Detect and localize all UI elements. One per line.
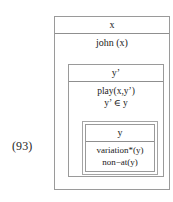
- drs-universe-outer: x: [55, 17, 169, 34]
- drs-box-inner-frame: y variation*(y) non−at(y): [82, 121, 158, 175]
- drs-condition-middle-1: y’ ∈ y: [69, 97, 163, 109]
- drs-box-outer: x john (x) ¬ y’ play(x,y’) y’ ∈ y y vari…: [54, 16, 170, 190]
- drs-condition-middle-0: play(x,y’): [69, 85, 163, 97]
- equation-number: (93): [12, 139, 32, 153]
- drs-box-middle: y’ play(x,y’) y’ ∈ y y variation*(y) non…: [68, 64, 164, 177]
- drs-conditions-outer: john (x): [55, 34, 169, 49]
- drs-box-inner: y variation*(y) non−at(y): [85, 124, 155, 172]
- drs-universe-inner: y: [86, 125, 154, 142]
- drs-condition-outer-0: john (x): [55, 37, 169, 49]
- drs-universe-middle: y’: [69, 65, 163, 82]
- drs-condition-inner-1: non−at(y): [86, 156, 154, 168]
- drs-condition-inner-0: variation*(y): [86, 144, 154, 156]
- drs-conditions-middle: play(x,y’) y’ ∈ y: [69, 82, 163, 109]
- drs-conditions-inner: variation*(y) non−at(y): [86, 142, 154, 168]
